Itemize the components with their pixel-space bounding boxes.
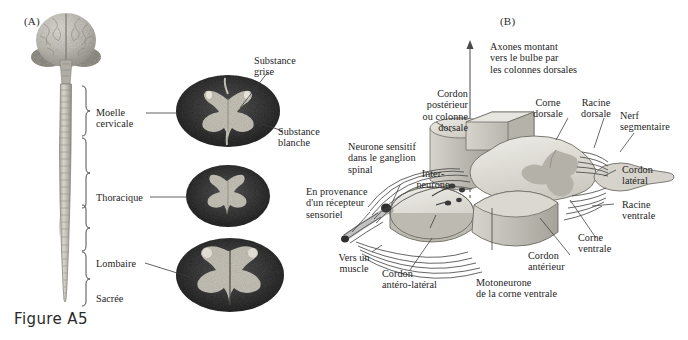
panel-a-leaders xyxy=(145,72,283,277)
ventral-root-fibers xyxy=(564,188,606,220)
dorsal-root-fibers xyxy=(576,152,608,176)
label-axones-montant: Axones montant vers le bulbe par les col… xyxy=(490,41,577,75)
label-racine-dorsale: Racine dorsale xyxy=(574,97,618,120)
label-racine-ventrale: Racine ventrale xyxy=(622,199,655,222)
label-cordon-posterieur: Cordon postérieur ou colonne dorsale xyxy=(396,88,468,134)
label-cordon-anterieur: Cordon antérieur xyxy=(528,250,565,273)
label-en-provenance-recepteur: En provenance d'un récepteur sensoriel xyxy=(306,186,367,220)
label-nerf-segmentaire: Nerf segmentaire xyxy=(620,110,670,133)
figure-caption: Figure A5 xyxy=(14,310,88,328)
label-corne-dorsale: Corne dorsale xyxy=(526,97,570,120)
label-interneurone: Inter- neurone xyxy=(408,168,458,191)
thoracic-cross-section xyxy=(186,165,270,227)
label-substance-blanche: Substance blanche xyxy=(278,126,320,149)
figure-artwork xyxy=(0,0,688,340)
brain-and-cord-artwork xyxy=(31,13,101,306)
cervical-cross-section xyxy=(176,75,280,147)
label-substance-grise: Substance grise xyxy=(254,55,296,78)
label-lombaire: Lombaire xyxy=(96,258,136,269)
figure-root: (A) (B) Moelle cervicale Thoracique Lomb… xyxy=(0,0,688,340)
label-neurone-sensitif-ganglion: Neurone sensitif dans le ganglion spinal xyxy=(348,141,416,175)
dorsal-root-ganglion-cell xyxy=(381,203,391,212)
label-corne-ventrale: Corne ventrale xyxy=(578,232,611,255)
label-thoracique: Thoracique xyxy=(96,192,143,203)
label-motoneurone-corne-ventrale: Motoneurone de la corne ventrale xyxy=(476,277,557,300)
lumbar-cross-section xyxy=(176,238,284,312)
label-moelle-cervicale: Moelle cervicale xyxy=(96,107,133,130)
panel-b-tag: (B) xyxy=(500,15,515,27)
label-cordon-antero-lateral: Cordon antéro-latéral xyxy=(382,268,437,291)
level-brackets xyxy=(82,86,90,306)
panel-a-tag: (A) xyxy=(24,15,40,27)
label-cordon-lateral: Cordon latéral xyxy=(622,164,653,187)
interneuron-disc xyxy=(390,187,474,242)
label-vers-un-muscle: Vers un muscle xyxy=(330,252,378,275)
label-sacree: Sacrée xyxy=(96,293,123,304)
